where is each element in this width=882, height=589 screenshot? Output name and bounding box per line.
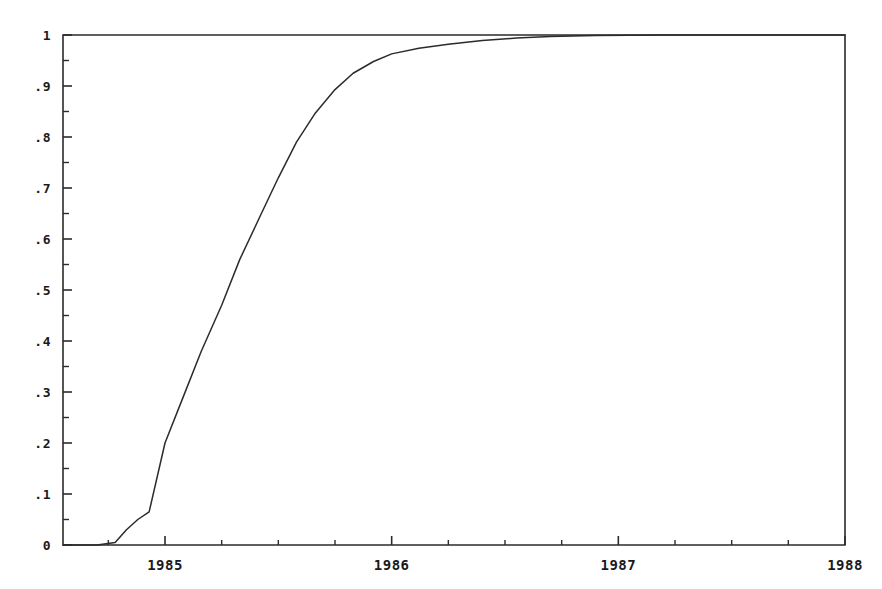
x-axis-tick-label: 1987 (600, 557, 636, 573)
x-axis-tick-label: 1986 (374, 557, 410, 573)
y-axis-tick-label: .9 (34, 79, 51, 94)
x-axis-tick-label: 1985 (147, 557, 183, 573)
y-axis-tick-label: .8 (34, 130, 51, 145)
y-axis-tick-label: .7 (34, 181, 51, 196)
y-axis-tick-label: 1 (43, 28, 51, 43)
x-axis-tick-label: 1988 (827, 557, 863, 573)
chart-series-group (63, 35, 845, 545)
chart-axes-group (63, 35, 845, 545)
chart-figure: 0.1.2.3.4.5.6.7.8.91 1985198619871988 (0, 0, 882, 589)
y-axis-tick-label: .1 (34, 487, 51, 502)
y-axis-tick-label: 0 (43, 538, 51, 553)
y-axis-tick-label: .4 (34, 334, 51, 349)
y-axis-tick-label: .5 (34, 283, 51, 298)
y-axis-tick-label: .3 (34, 385, 51, 400)
y-axis-tick-label: .2 (34, 436, 51, 451)
y-axis-tick-label: .6 (34, 232, 51, 247)
data-line-cumulative-fraction (63, 35, 845, 545)
axis-frame (63, 35, 845, 545)
chart-plot-area (0, 0, 882, 589)
